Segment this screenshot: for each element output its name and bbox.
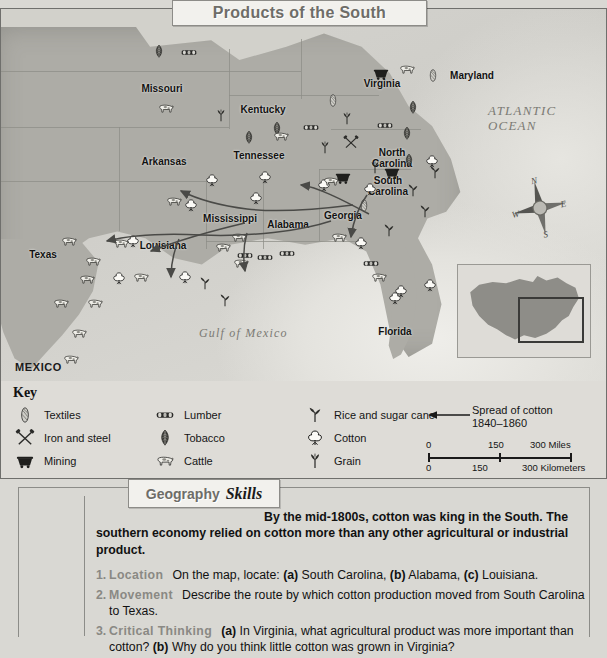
question-number: 3. [96, 623, 109, 656]
map-key-panel: Key TextilesIron and steelMining LumberT… [0, 381, 607, 479]
question-category: Movement [109, 588, 173, 602]
cattle-icon [399, 63, 415, 76]
state-border [1, 71, 301, 72]
cattle-icon [133, 271, 149, 284]
state-label-virginia: Virginia [348, 79, 416, 90]
rice-icon [217, 294, 233, 307]
key-label: Cattle [184, 455, 213, 467]
cattle-icon [215, 241, 231, 254]
svg-text:E: E [559, 198, 568, 209]
grain-icon [317, 141, 333, 154]
key-column-2: LumberTobaccoCattle [153, 403, 225, 472]
state-border [301, 39, 302, 99]
question-text: On the map, locate: (a) South Carolina, … [172, 568, 538, 582]
cotton-icon [204, 174, 220, 187]
spread-arrow-icon [426, 409, 472, 421]
svg-text:W: W [511, 208, 522, 220]
key-label: Mining [44, 455, 76, 467]
rice-icon [417, 205, 433, 218]
cattle-icon [87, 297, 103, 310]
scale-km-tick-1: 150 [472, 462, 488, 473]
iron-icon [343, 136, 359, 149]
tobacco-icon [153, 429, 177, 447]
svg-text:S: S [542, 229, 549, 239]
cattle-icon [158, 102, 174, 115]
rice-icon [381, 224, 397, 237]
key-label: Grain [334, 455, 361, 467]
ocean-label-atlantic: ATLANTIC OCEAN [488, 104, 556, 134]
inset-locator-map [457, 264, 591, 358]
scale-km-tick-0: 0 [426, 462, 431, 473]
mining-icon [384, 166, 400, 179]
textiles-icon [325, 94, 341, 107]
lumber-icon [377, 119, 393, 132]
lumber-icon [257, 251, 273, 264]
cotton-icon [303, 429, 327, 447]
rice-icon [405, 184, 421, 197]
state-label-alabama: Alabama [254, 220, 322, 231]
cotton-icon [111, 272, 127, 285]
question-body: Critical Thinking(a) In Virginia, what a… [109, 623, 588, 656]
cattle-icon [85, 255, 101, 268]
cattle-icon [53, 297, 69, 310]
state-label-maryland: Maryland [438, 71, 506, 82]
key-entry-grain: Grain [303, 449, 435, 472]
state-label-tennessee: Tennessee [225, 151, 293, 162]
cattle-icon [61, 235, 77, 248]
cattle-icon [166, 195, 182, 208]
key-title: Key [13, 385, 37, 401]
key-column-1: TextilesIron and steelMining [13, 403, 111, 472]
scale-miles-tick-0: 0 [426, 439, 431, 450]
key-entry-iron-and-steel: Iron and steel [13, 426, 111, 449]
tobacco-icon [151, 45, 167, 58]
rice-icon [427, 166, 443, 179]
lumber-icon [181, 46, 197, 59]
map-panel: ATLANTIC OCEAN Gulf of Mexico MEXICO Mis… [0, 8, 607, 382]
grain-icon [339, 112, 355, 125]
cattle-icon [71, 327, 87, 340]
lumber-icon [303, 121, 319, 134]
country-label-mexico: MEXICO [15, 361, 62, 373]
skills-question: 2.MovementDescribe the route by which co… [96, 587, 588, 620]
cotton-icon [183, 199, 199, 212]
cotton-icon [387, 292, 403, 305]
cattle-icon [231, 231, 247, 244]
state-label-florida: Florida [361, 327, 429, 338]
tobacco-icon [401, 154, 417, 167]
key-entry-cattle: Cattle [153, 449, 225, 472]
skills-question: 3.Critical Thinking(a) In Virginia, what… [96, 623, 588, 656]
key-entry-cotton: Cotton [303, 426, 435, 449]
state-label-missouri: Missouri [128, 84, 196, 95]
cattle-icon [331, 231, 347, 244]
cotton-icon [257, 171, 273, 184]
textiles-icon [356, 199, 372, 212]
lumber-icon [279, 247, 295, 260]
map-scale-bars: 0 150 300 Miles 0 150 300 Kilometers [426, 439, 586, 475]
key-entry-rice-and-sugar-cane: Rice and sugar cane [303, 403, 435, 426]
key-label: Textiles [44, 409, 81, 421]
compass-rose: N S W E [509, 177, 571, 239]
state-border [1, 181, 213, 182]
tobacco-icon [399, 127, 415, 140]
state-border [119, 127, 120, 231]
rice-icon [303, 406, 327, 424]
question-text: Describe the route by which cotton produ… [109, 588, 585, 619]
cattle-icon [113, 237, 129, 250]
mining-icon [373, 67, 389, 80]
question-body: MovementDescribe the route by which cott… [109, 587, 588, 620]
question-category: Location [109, 568, 163, 582]
textiles-icon [13, 406, 37, 424]
state-border [229, 49, 230, 129]
key-label: Tobacco [184, 432, 225, 444]
geography-skills-banner: Geography Skills [128, 479, 280, 508]
cotton-icon [248, 192, 264, 205]
grain-icon [213, 109, 229, 122]
key-entry-lumber: Lumber [153, 403, 225, 426]
state-border [229, 95, 379, 96]
scale-miles-labels: 0 150 300 Miles [426, 439, 586, 452]
scale-miles-tick-1: 150 [488, 439, 504, 450]
cotton-icon [362, 183, 378, 196]
key-label: Cotton [334, 432, 366, 444]
skills-banner-word-skills: Skills [226, 485, 262, 503]
